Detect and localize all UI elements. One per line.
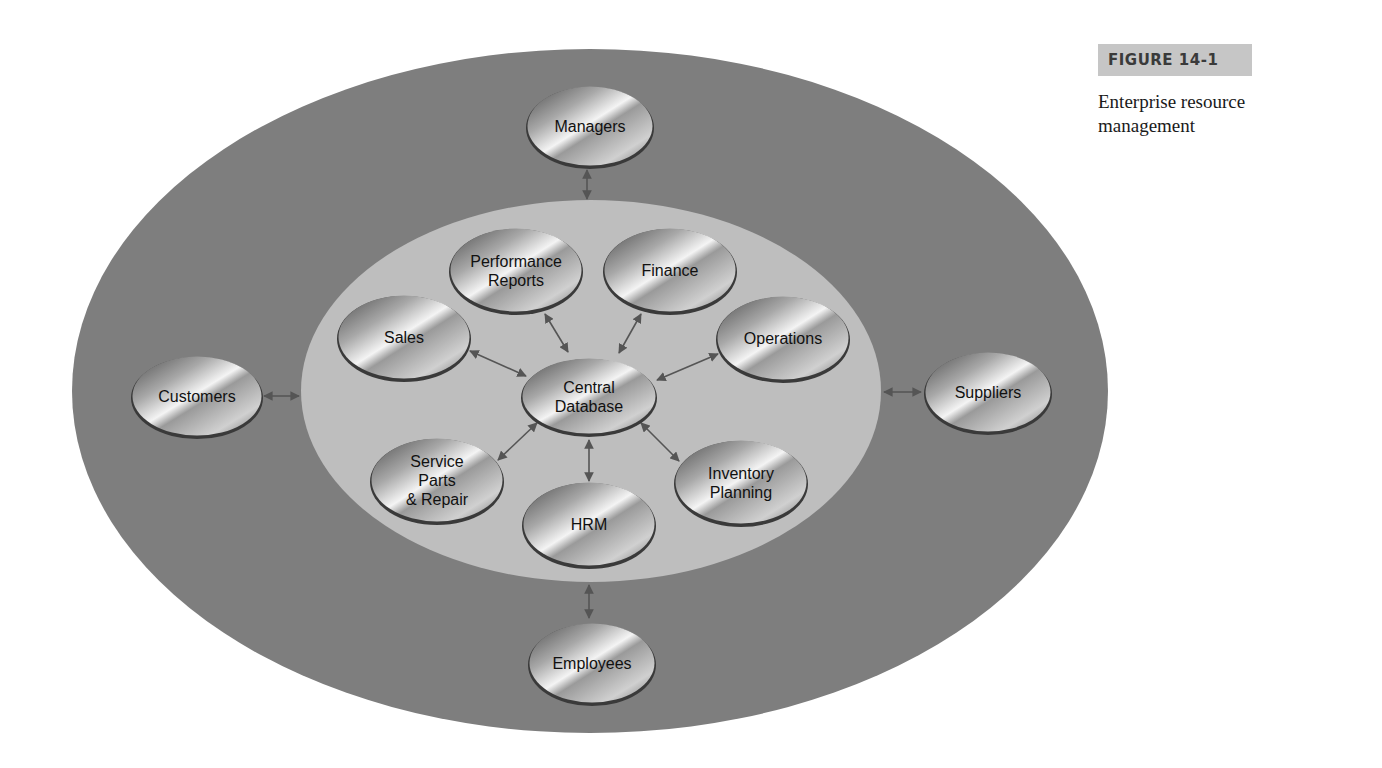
node-hrm: HRM bbox=[522, 483, 656, 570]
node-inventory-planning: InventoryPlanning bbox=[674, 441, 808, 528]
node-label: Performance bbox=[470, 253, 562, 270]
node-label: Operations bbox=[744, 330, 822, 347]
figure-title: Enterprise resource management bbox=[1098, 90, 1298, 138]
node-label: Parts bbox=[418, 472, 455, 489]
node-employees: Employees bbox=[528, 624, 656, 707]
node-label: Central bbox=[563, 379, 615, 396]
node-customers: Customers bbox=[131, 357, 263, 440]
erm-diagram: ManagersCustomersSuppliersEmployeesPerfo… bbox=[0, 0, 1130, 768]
node-performance-reports: PerformanceReports bbox=[449, 229, 583, 316]
node-label: Database bbox=[555, 398, 624, 415]
node-finance: Finance bbox=[603, 229, 737, 316]
node-operations: Operations bbox=[716, 297, 850, 384]
node-label: Sales bbox=[384, 329, 424, 346]
node-label: Employees bbox=[552, 655, 631, 672]
node-label: Inventory bbox=[708, 465, 774, 482]
node-label: & Repair bbox=[406, 491, 469, 508]
node-label: Service bbox=[410, 453, 463, 470]
figure-number: FIGURE 14-1 bbox=[1098, 44, 1252, 76]
node-label: Planning bbox=[710, 484, 772, 501]
figure-caption: FIGURE 14-1 Enterprise resource manageme… bbox=[1098, 44, 1368, 138]
node-managers: Managers bbox=[526, 87, 654, 170]
node-suppliers: Suppliers bbox=[924, 353, 1052, 436]
node-label: HRM bbox=[571, 516, 607, 533]
node-label: Suppliers bbox=[955, 384, 1022, 401]
node-label: Customers bbox=[158, 388, 235, 405]
node-label: Managers bbox=[554, 118, 625, 135]
node-central-database: CentralDatabase bbox=[521, 359, 657, 438]
node-sales: Sales bbox=[337, 296, 471, 383]
node-service-parts-repair: ServiceParts& Repair bbox=[370, 439, 504, 526]
node-label: Reports bbox=[488, 272, 544, 289]
node-label: Finance bbox=[642, 262, 699, 279]
